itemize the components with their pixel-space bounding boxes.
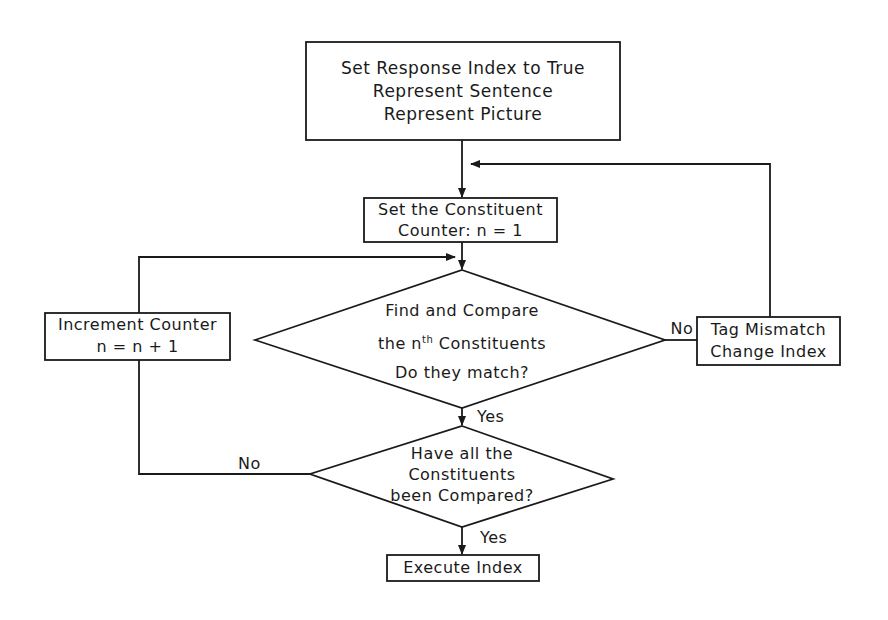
increment-text: Increment Counter n = n + 1 bbox=[45, 314, 230, 358]
set-counter-line-1: Set the Constituent bbox=[364, 199, 557, 220]
compare-no-label: No bbox=[667, 318, 697, 340]
increment-line-2: n = n + 1 bbox=[45, 336, 230, 358]
set-counter-line-2: Counter: n = 1 bbox=[364, 220, 557, 241]
compare-yes-label: Yes bbox=[477, 406, 504, 428]
compare-line-3: Do they match? bbox=[305, 358, 619, 387]
all-compared-line-2: Constituents bbox=[362, 464, 562, 485]
all-compared-text: Have all the Constituents been Compared? bbox=[362, 443, 562, 506]
tag-mismatch-line-2: Change Index bbox=[697, 341, 840, 363]
all-compared-line-1: Have all the bbox=[362, 443, 562, 464]
all-compared-line-3: been Compared? bbox=[362, 485, 562, 506]
increment-line-1: Increment Counter bbox=[45, 314, 230, 336]
start-line-1: Set Response Index to True bbox=[306, 57, 620, 80]
execute-text: Execute Index bbox=[387, 557, 539, 579]
all-compared-yes-label: Yes bbox=[480, 527, 507, 549]
execute-line-1: Execute Index bbox=[387, 557, 539, 579]
start-line-2: Represent Sentence bbox=[306, 80, 620, 103]
compare-diamond-text: Find and Compare the nth Constituents Do… bbox=[305, 296, 619, 387]
edge-all-compared-no bbox=[139, 360, 310, 474]
tag-mismatch-line-1: Tag Mismatch bbox=[697, 319, 840, 341]
all-compared-no-label: No bbox=[238, 453, 261, 475]
start-box-text: Set Response Index to True Represent Sen… bbox=[306, 57, 620, 126]
compare-line-1: Find and Compare bbox=[305, 296, 619, 325]
start-line-3: Represent Picture bbox=[306, 103, 620, 126]
set-counter-text: Set the Constituent Counter: n = 1 bbox=[364, 199, 557, 241]
tag-mismatch-text: Tag Mismatch Change Index bbox=[697, 319, 840, 363]
compare-line-2: the nth Constituents bbox=[305, 325, 619, 358]
